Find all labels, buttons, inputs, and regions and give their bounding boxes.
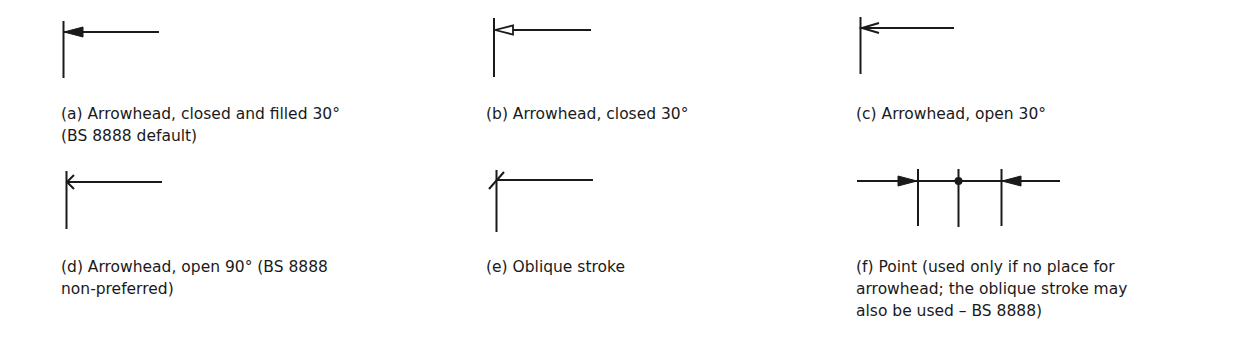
caption-line: (f) Point (used only if no place for [856, 256, 1127, 278]
panel-f-graphic [857, 169, 1060, 227]
caption-line: (c) Arrowhead, open 30° [856, 103, 1046, 125]
filled-arrowhead-icon [1002, 176, 1021, 186]
caption-a: (a) Arrowhead, closed and filled 30° (BS… [61, 103, 340, 147]
closed-arrowhead-icon [495, 26, 513, 35]
caption-line: arrowhead; the oblique stroke may [856, 278, 1127, 300]
panel-c-graphic [861, 17, 955, 74]
caption-line: also be used – BS 8888) [856, 300, 1127, 322]
caption-line: (b) Arrowhead, closed 30° [486, 103, 688, 125]
panel-b-graphic [494, 18, 591, 77]
caption-e: (e) Oblique stroke [486, 256, 625, 278]
caption-line: (a) Arrowhead, closed and filled 30° [61, 103, 340, 125]
caption-b: (b) Arrowhead, closed 30° [486, 103, 688, 125]
caption-c: (c) Arrowhead, open 30° [856, 103, 1046, 125]
caption-f: (f) Point (used only if no place for arr… [856, 256, 1127, 322]
panel-d-graphic [67, 171, 163, 229]
caption-line: (e) Oblique stroke [486, 256, 625, 278]
panel-e-graphic [489, 170, 593, 232]
point-dot-icon [955, 177, 963, 185]
filled-arrowhead-icon [64, 27, 83, 37]
caption-line: (d) Arrowhead, open 90° (BS 8888 [61, 256, 328, 278]
caption-line: (BS 8888 default) [61, 125, 340, 147]
caption-line: non-preferred) [61, 278, 328, 300]
panel-a-graphic [64, 21, 160, 78]
caption-d: (d) Arrowhead, open 90° (BS 8888 non-pre… [61, 256, 328, 300]
filled-arrowhead-icon [898, 176, 917, 186]
